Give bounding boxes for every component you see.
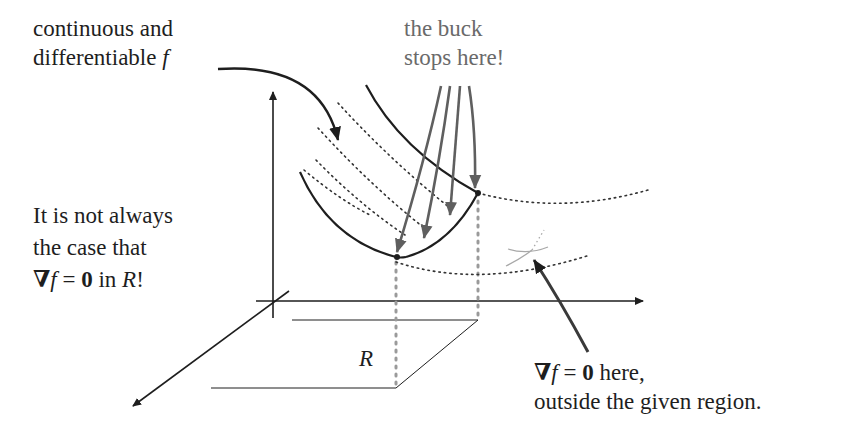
label-line: ∇f = 0 here,: [534, 358, 761, 387]
exclamation: !: [136, 267, 144, 292]
equals: =: [57, 267, 81, 292]
surface-dotted-curves: [304, 103, 648, 274]
math-R: R: [122, 267, 136, 292]
label-line: ∇f = 0 in R!: [33, 264, 173, 296]
region-R-outline: [211, 320, 478, 388]
here-text: here,: [594, 360, 645, 385]
equals: =: [558, 360, 582, 385]
label-line: outside the given region.: [534, 387, 761, 416]
boundary-points: [394, 190, 481, 260]
math-f: f: [162, 45, 168, 70]
label-line: stops here!: [404, 43, 504, 72]
bold-zero: 0: [582, 360, 594, 385]
label-line: the buck: [404, 14, 504, 43]
label-not-always-zero: It is not always the case that ∇f = 0 in…: [33, 200, 173, 296]
bold-zero: 0: [81, 267, 93, 292]
in-text: in: [93, 267, 122, 292]
label-line: differentiable f: [33, 43, 173, 72]
critical-point-sketch: [506, 230, 548, 266]
label-line: continuous and: [33, 14, 173, 43]
nabla-symbol: ∇: [33, 267, 50, 292]
pointer-arrow-critical-point: [534, 260, 588, 352]
label-buck-stops-here: the buck stops here!: [404, 14, 504, 72]
label-continuous-differentiable: continuous and differentiable f: [33, 14, 173, 72]
projection-lines: [396, 193, 478, 388]
label-region-R: R: [359, 344, 373, 373]
x-axis: [133, 291, 289, 406]
label-line: the case that: [33, 232, 173, 264]
label-line: It is not always: [33, 200, 173, 232]
pointer-arrow-f: [218, 68, 338, 140]
label-text: differentiable: [33, 45, 162, 70]
buck-stops-arrows: [397, 86, 475, 252]
label-gradient-zero-outside: ∇f = 0 here, outside the given region.: [534, 358, 761, 416]
nabla-symbol: ∇: [534, 360, 551, 385]
